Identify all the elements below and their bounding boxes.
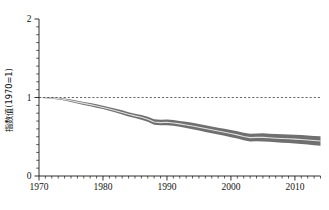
x-tick-label: 1970 [30, 182, 49, 192]
x-tick-label: 1980 [93, 182, 112, 192]
x-tick-label: 1990 [157, 182, 176, 192]
y-tick-label: 2 [27, 14, 32, 24]
chart-background [0, 0, 329, 210]
y-tick-label: 1 [27, 93, 32, 103]
y-axis-label: 指数值(1970=1) [4, 68, 14, 131]
figure-container: 012 19701980199020002010 指数值(1970=1) [0, 0, 329, 210]
x-tick-label: 2000 [221, 182, 240, 192]
line-chart: 012 19701980199020002010 指数值(1970=1) [0, 0, 329, 210]
x-tick-label: 2010 [285, 182, 304, 192]
y-tick-label: 0 [27, 171, 32, 181]
